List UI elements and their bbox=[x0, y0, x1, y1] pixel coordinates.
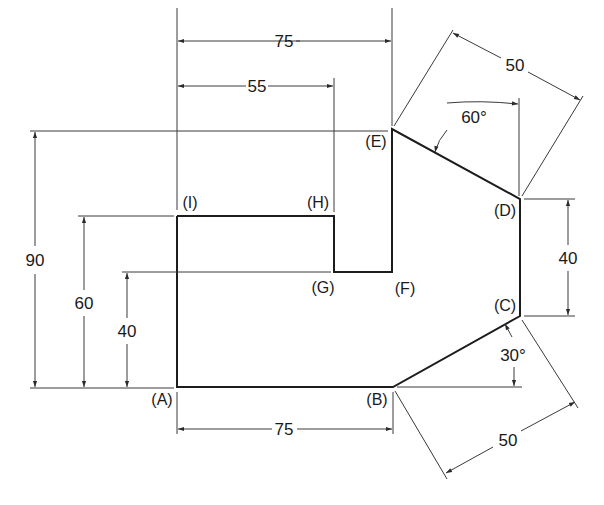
extension-lines bbox=[30, 8, 583, 479]
vertex-label-e: (E) bbox=[365, 133, 386, 150]
vertex-label-b: (B) bbox=[366, 391, 387, 408]
dim-angle-30: 30° bbox=[500, 346, 526, 365]
vertex-label-i: (I) bbox=[182, 194, 197, 211]
technical-drawing: 75 55 90 60 40 75 40 50 50 60° 30° (A) (… bbox=[0, 0, 604, 505]
part-outline bbox=[177, 129, 520, 387]
dim-left-90: 90 bbox=[26, 251, 45, 270]
dim-right-40: 40 bbox=[559, 249, 578, 268]
dim-top-75: 75 bbox=[275, 32, 294, 51]
dim-left-40: 40 bbox=[118, 322, 137, 341]
vertex-label-c: (C) bbox=[494, 297, 516, 314]
vertex-label-h: (H) bbox=[307, 194, 329, 211]
dim-lower-right-50: 50 bbox=[499, 431, 518, 450]
vertex-label-g: (G) bbox=[311, 279, 334, 296]
dim-top-55: 55 bbox=[248, 77, 267, 96]
dim-left-60: 60 bbox=[75, 294, 94, 313]
dim-bottom-75: 75 bbox=[275, 420, 294, 439]
vertex-label-a: (A) bbox=[151, 391, 172, 408]
dim-angle-60: 60° bbox=[461, 108, 487, 127]
dimension-lines bbox=[35, 33, 580, 473]
vertex-label-d: (D) bbox=[494, 202, 516, 219]
vertex-label-f: (F) bbox=[395, 280, 415, 297]
dim-upper-right-50: 50 bbox=[506, 56, 525, 75]
